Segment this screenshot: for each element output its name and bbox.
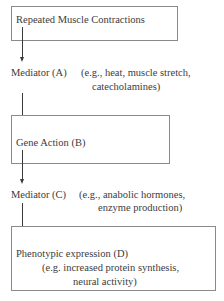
arrow-line-b-to-c xyxy=(22,150,23,179)
node-detail-mediator-c-line2: enzyme production) xyxy=(98,201,182,214)
arrow-head-icon xyxy=(20,179,24,184)
arrow-line-contractions-to-a xyxy=(22,27,23,57)
node-label-phenotypic-expression-d: Phenotypic expression (D) xyxy=(16,247,128,260)
node-label-mediator-c: Mediator (C) xyxy=(11,188,66,201)
arrow-head-icon xyxy=(20,57,24,62)
node-label-gene-action-b: Gene Action (B) xyxy=(16,136,85,149)
node-detail-phenotypic-line2: neural activity) xyxy=(73,275,137,288)
node-detail-mediator-c-line1: (e.g., anabolic hormones, xyxy=(79,188,185,201)
node-label-mediator-a: Mediator (A) xyxy=(11,66,67,79)
node-label-contractions: Repeated Muscle Contractions xyxy=(16,13,145,26)
node-detail-mediator-a-line1: (e.g., heat, muscle stretch, xyxy=(81,66,191,79)
node-detail-mediator-a-line2: catecholamines) xyxy=(92,80,160,93)
node-detail-phenotypic-line1: (e.g. increased protein synthesis, xyxy=(42,261,179,274)
